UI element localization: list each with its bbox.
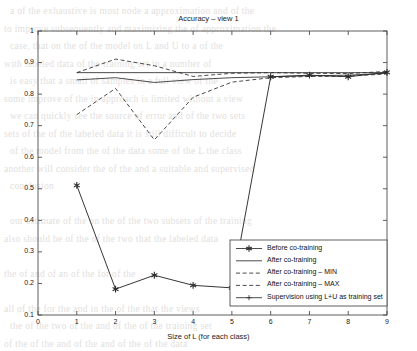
data-point-marker <box>151 272 157 279</box>
x-tick-label: 7 <box>299 318 319 325</box>
x-tick-label: 0 <box>28 318 48 325</box>
y-tick-label: 1 <box>8 27 34 34</box>
series-line-3 <box>77 59 387 76</box>
x-tick-label: 2 <box>106 318 126 325</box>
x-tick-label: 9 <box>377 318 397 325</box>
legend-item-label[interactable]: After co-training – MIN <box>267 268 337 275</box>
x-axis-label: Size of L (for each class) <box>0 332 417 341</box>
legend-item-label[interactable]: After co-training <box>267 256 316 263</box>
legend-item-label[interactable]: Supervision using L+U as training set <box>267 293 383 300</box>
y-tick-label: 0.5 <box>8 184 34 191</box>
series-line-1 <box>77 73 387 82</box>
y-tick-label: 0.7 <box>8 121 34 128</box>
x-tick-label: 6 <box>261 318 281 325</box>
series-line-2 <box>77 74 387 140</box>
y-tick-label: 0.4 <box>8 216 34 223</box>
y-tick-label: 0.2 <box>8 279 34 286</box>
y-tick-label: 0.3 <box>8 247 34 254</box>
legend-item-label[interactable]: After co-training – MAX <box>267 280 339 287</box>
figure-container: a of the exhaustive is most node a appro… <box>0 0 417 351</box>
data-point-marker <box>74 182 80 189</box>
x-tick-label: 1 <box>67 318 87 325</box>
x-tick-label: 8 <box>338 318 358 325</box>
legend-item-label[interactable]: Before co-training <box>267 244 322 251</box>
x-tick-label: 4 <box>183 318 203 325</box>
x-tick-label: 5 <box>222 318 242 325</box>
y-tick-label: 0.1 <box>8 311 34 318</box>
chart-title: Accuracy – view 1 <box>0 14 417 23</box>
y-tick-label: 0.8 <box>8 90 34 97</box>
x-tick-label: 3 <box>144 318 164 325</box>
y-tick-label: 0.6 <box>8 153 34 160</box>
y-tick-label: 0.9 <box>8 58 34 65</box>
data-point-marker <box>113 286 119 293</box>
